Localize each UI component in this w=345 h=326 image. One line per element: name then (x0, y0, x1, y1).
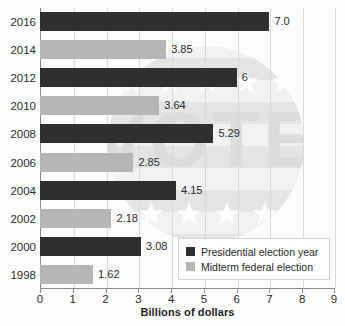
x-axis-tick-label: 5 (201, 293, 207, 305)
y-axis-tick-label: 1998 (10, 261, 36, 289)
bar (40, 209, 111, 228)
y-axis-tick-label: 2000 (10, 233, 36, 261)
bar-row: 3.64 (40, 92, 335, 120)
bar-value-label: 2.85 (133, 153, 159, 172)
bar-value-label: 3.85 (166, 40, 192, 59)
legend-label: Midterm federal election (201, 261, 313, 273)
gridline (335, 8, 336, 288)
x-axis-tick-label: 7 (266, 293, 272, 305)
y-axis-tick-label: 2006 (10, 149, 36, 177)
x-axis-tick-label: 9 (331, 293, 337, 305)
legend-label: Presidential election year (201, 246, 318, 258)
bar-value-label: 5.29 (213, 124, 239, 143)
bar (40, 237, 141, 256)
y-axis-tick-label: 2004 (10, 177, 36, 205)
y-axis-tick-label: 2002 (10, 205, 36, 233)
bar (40, 153, 133, 172)
bar (40, 40, 166, 59)
legend-swatch-icon (186, 262, 195, 271)
bar-value-label: 4.15 (176, 181, 202, 200)
bar (40, 181, 176, 200)
x-axis-tick-label: 0 (37, 293, 43, 305)
x-axis-tick-label: 1 (70, 293, 76, 305)
bar-row: 3.85 (40, 36, 335, 64)
y-axis-tick-label: 2010 (10, 92, 36, 120)
bar-row: 5.29 (40, 120, 335, 148)
y-axis-tick-label: 2012 (10, 64, 36, 92)
y-axis-tick-label: 2014 (10, 36, 36, 64)
bar (40, 265, 93, 284)
bar (40, 124, 213, 143)
legend-item-midterm: Midterm federal election (186, 259, 323, 274)
bar-value-label: 6 (237, 68, 248, 87)
bar-row: 6 (40, 64, 335, 92)
x-axis: 0 1 2 3 4 5 6 7 8 9 (40, 289, 335, 305)
bar-value-label: 3.64 (159, 96, 185, 115)
legend-swatch-icon (186, 247, 195, 256)
bar-row: 7.0 (40, 8, 335, 36)
bar (40, 12, 269, 31)
x-axis-title: Billions of dollars (40, 306, 335, 318)
x-axis-tick-label: 2 (102, 293, 108, 305)
y-axis-tick-label: 2008 (10, 120, 36, 148)
legend-item-presidential: Presidential election year (186, 244, 323, 259)
y-axis-labels: 2016 2014 2012 2010 2008 2006 2004 2002 … (0, 8, 36, 289)
bar-value-label: 7.0 (269, 12, 289, 31)
bar-value-label: 3.08 (141, 237, 167, 256)
chart-legend: Presidential election year Midterm feder… (178, 238, 330, 280)
bar-row: 2.85 (40, 149, 335, 177)
x-axis-tick-label: 8 (299, 293, 305, 305)
x-axis-tick-label: 6 (233, 293, 239, 305)
bar-row: 4.15 (40, 177, 335, 205)
x-axis-tick-label: 3 (135, 293, 141, 305)
x-axis-tick-label: 4 (168, 293, 174, 305)
bar (40, 96, 159, 115)
bar (40, 68, 237, 87)
bar-chart: VOTE 2016 2014 2012 2010 2008 2006 2004 … (0, 0, 345, 326)
bar-row: 2.18 (40, 205, 335, 233)
y-axis-tick-label: 2016 (10, 8, 36, 36)
bar-value-label: 1.62 (93, 265, 119, 284)
bar-value-label: 2.18 (111, 209, 137, 228)
